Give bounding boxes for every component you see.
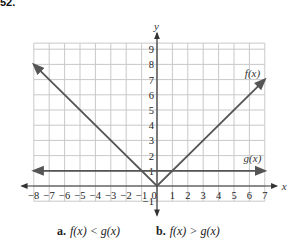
question-list: a.f(x) < g(x) b.f(x) > g(x): [0, 224, 301, 244]
x-tick-label: 6: [247, 190, 252, 201]
question-expression: f(x) > g(x): [170, 224, 220, 238]
question-letter: b.: [156, 224, 166, 238]
y-tick-label: 6: [149, 90, 154, 101]
y-tick-label: 2: [149, 151, 154, 162]
y-tick-label: 7: [149, 75, 154, 86]
y-tick-label: 3: [149, 135, 154, 146]
x-tick-label: −7: [44, 190, 55, 201]
x-tick-label: −4: [90, 190, 102, 201]
y-tick-label: 4: [149, 120, 155, 131]
question-expression: f(x) < g(x): [70, 224, 120, 238]
x-tick-label: 5: [231, 190, 236, 201]
x-axis-label: x: [281, 180, 287, 192]
y-axis-label: y: [153, 20, 159, 32]
f-label: f(x): [245, 67, 261, 80]
chart: xy−8−7−6−5−4−3−2−101234567−1123456789f(x…: [0, 0, 301, 224]
question-a: a.f(x) < g(x): [57, 224, 120, 239]
x-tick-label: 4: [216, 190, 222, 201]
x-tick-label: −2: [121, 190, 132, 201]
x-tick-label: 2: [185, 190, 190, 201]
x-tick-label: 1: [170, 190, 175, 201]
y-tick-label: −1: [143, 196, 154, 207]
x-tick-label: −8: [28, 190, 39, 201]
x-tick-label: 3: [201, 190, 206, 201]
x-tick-label: −6: [59, 190, 70, 201]
question-b: b.f(x) > g(x): [156, 224, 220, 239]
y-tick-label: 9: [149, 44, 154, 55]
g-label: g(x): [244, 152, 262, 165]
y-tick-label: 8: [149, 59, 154, 70]
x-tick-label: −3: [105, 190, 116, 201]
y-tick-label: 5: [149, 105, 154, 116]
question-letter: a.: [57, 224, 66, 238]
x-tick-label: −5: [74, 190, 85, 201]
x-tick-label: 7: [262, 190, 267, 201]
